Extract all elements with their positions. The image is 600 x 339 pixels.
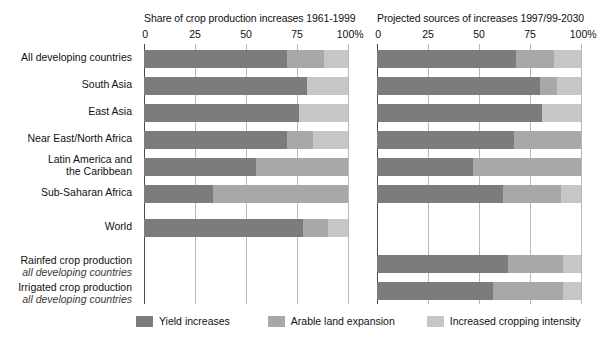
bar-segment-intensity <box>328 219 348 237</box>
bar-segment-arable <box>516 50 555 68</box>
bar-segment-yield <box>144 77 307 95</box>
legend-swatch-icon <box>427 316 444 327</box>
category-label: South Asia <box>0 79 132 91</box>
category-label-main: Irrigated crop production <box>18 281 132 293</box>
plot-area-right <box>377 44 581 304</box>
chart-legend: Yield increasesArable land expansionIncr… <box>136 311 596 331</box>
bar-segment-arable <box>540 77 556 95</box>
category-label: Latin America andthe Caribbean <box>0 154 132 177</box>
bar-segment-yield <box>144 219 303 237</box>
legend-swatch-icon <box>136 316 153 327</box>
bar-segment-yield <box>377 131 514 149</box>
bar-row <box>144 219 348 237</box>
category-label: Irrigated crop productionall developing … <box>0 282 132 305</box>
chart-figure: Share of crop production increases 1961-… <box>0 0 600 339</box>
bar-row <box>377 77 581 95</box>
bar-segment-arable <box>514 131 581 149</box>
category-label-line2: the Caribbean <box>0 166 132 178</box>
category-label-main: Rainfed crop production <box>21 254 133 266</box>
bar-segment-intensity <box>313 131 348 149</box>
gridline <box>348 44 349 304</box>
legend-item: Yield increases <box>136 315 230 327</box>
bar-segment-arable <box>493 282 562 300</box>
bar-segment-yield <box>144 50 287 68</box>
bar-segment-intensity <box>542 104 581 122</box>
bar-segment-yield <box>144 185 213 203</box>
bar-segment-intensity <box>561 185 581 203</box>
bar-row <box>377 131 581 149</box>
category-label-subtitle: all developing countries <box>0 267 132 279</box>
category-label-main: Sub-Saharan Africa <box>41 186 132 198</box>
bar-segment-yield <box>144 131 287 149</box>
bar-row <box>144 185 348 203</box>
category-label-main: Near East/North Africa <box>28 132 132 144</box>
x-tick-label: 100% <box>570 28 597 40</box>
bar-segment-yield <box>377 104 542 122</box>
bar-segment-intensity <box>557 77 581 95</box>
category-label-main: World <box>105 220 132 232</box>
category-label-main: All developing countries <box>21 51 132 63</box>
bar-segment-yield <box>377 185 503 203</box>
x-tick-label: 50 <box>240 28 252 40</box>
gridline <box>581 44 582 304</box>
legend-label: Yield increases <box>159 315 230 327</box>
bar-segment-arable <box>256 158 348 176</box>
bar-segment-yield <box>377 158 473 176</box>
category-label: Rainfed crop productionall developing co… <box>0 255 132 278</box>
bar-row <box>377 185 581 203</box>
category-label: All developing countries <box>0 52 132 64</box>
bar-segment-arable <box>473 158 581 176</box>
bar-row <box>144 104 348 122</box>
x-tick-label: 0 <box>375 28 381 40</box>
bar-segment-intensity <box>324 50 348 68</box>
bar-segment-intensity <box>307 77 348 95</box>
bar-segment-intensity <box>563 282 581 300</box>
category-axis-labels: All developing countriesSouth AsiaEast A… <box>0 0 138 339</box>
bar-segment-yield <box>377 282 493 300</box>
bar-segment-yield <box>144 158 256 176</box>
bar-row <box>144 77 348 95</box>
bar-segment-yield <box>377 50 516 68</box>
legend-label: Arable land expansion <box>291 315 395 327</box>
x-tick-label: 0 <box>142 28 148 40</box>
panel-title-right: Projected sources of increases 1997/99-2… <box>377 12 584 24</box>
bar-segment-yield <box>377 255 508 273</box>
category-label: East Asia <box>0 106 132 118</box>
bar-segment-yield <box>144 104 299 122</box>
bar-segment-arable <box>213 185 348 203</box>
legend-item: Arable land expansion <box>268 315 395 327</box>
bar-segment-arable <box>287 50 324 68</box>
x-tick-label: 50 <box>473 28 485 40</box>
bar-segment-arable <box>287 131 314 149</box>
bar-row <box>377 104 581 122</box>
x-tick-label: 100% <box>337 28 364 40</box>
bar-segment-intensity <box>554 50 581 68</box>
category-label-subtitle: all developing countries <box>0 294 132 306</box>
bar-row <box>377 255 581 273</box>
bar-row <box>144 50 348 68</box>
bar-row <box>377 158 581 176</box>
bar-segment-intensity <box>299 104 348 122</box>
legend-label: Increased cropping intensity <box>450 315 581 327</box>
category-label-main: South Asia <box>82 78 132 90</box>
bar-row <box>144 158 348 176</box>
x-tick-label: 75 <box>291 28 303 40</box>
bar-segment-intensity <box>563 255 581 273</box>
x-tick-label: 25 <box>189 28 201 40</box>
bar-row <box>377 50 581 68</box>
bar-row <box>144 131 348 149</box>
bar-segment-yield <box>377 77 540 95</box>
legend-swatch-icon <box>268 316 285 327</box>
x-axis-left: 0255075100% <box>144 28 348 42</box>
category-label: Sub-Saharan Africa <box>0 187 132 199</box>
panel-title-left: Share of crop production increases 1961-… <box>144 12 356 24</box>
legend-item: Increased cropping intensity <box>427 315 581 327</box>
category-label: World <box>0 221 132 233</box>
x-tick-label: 25 <box>422 28 434 40</box>
category-label-main: East Asia <box>88 105 132 117</box>
bar-row <box>377 282 581 300</box>
x-axis-right: 0255075100% <box>377 28 581 42</box>
bar-segment-arable <box>508 255 563 273</box>
bar-segment-arable <box>503 185 560 203</box>
x-tick-label: 75 <box>524 28 536 40</box>
